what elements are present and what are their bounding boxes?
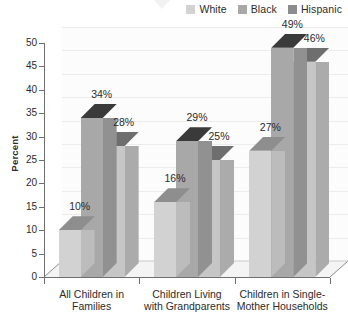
legend-swatch-black (238, 5, 247, 14)
legend-item-black[interactable]: Black (238, 4, 277, 15)
y-axis-label: 15 (10, 202, 37, 212)
bar-white-1[interactable] (59, 230, 81, 277)
y-axis-label: 10 (10, 225, 37, 235)
legend-label-white: White (199, 4, 226, 15)
legend-label-black: Black (251, 4, 277, 15)
bar-front-face (154, 202, 176, 277)
y-axis-label: 25 (10, 155, 37, 165)
y-axis-label: 5 (10, 249, 37, 259)
bar-white-2[interactable] (154, 202, 176, 277)
bar-value-label: 29% (178, 112, 216, 123)
bar-side-face (125, 146, 139, 277)
bar-value-label: 28% (105, 117, 143, 128)
y-axis-label: 30 (10, 132, 37, 142)
bar-value-label: 25% (200, 131, 238, 142)
bar-value-label: 10% (61, 201, 99, 212)
bar-white-3[interactable] (249, 151, 271, 277)
category-label-line: All Children in (40, 288, 143, 300)
bar-front-face (249, 151, 271, 277)
x-axis-category-label: Children in Single-Mother Households (231, 288, 334, 312)
x-axis-tick (235, 278, 236, 284)
bar-side-face (315, 62, 329, 277)
y-axis-label: 45 (10, 61, 37, 71)
bar-side-face (293, 48, 307, 277)
category-label-line: Children Living (135, 288, 238, 300)
top-edge-artifact (146, 0, 178, 9)
legend-swatch-hispanic (288, 5, 297, 14)
bar-side-face (220, 160, 234, 277)
legend-label-hispanic: Hispanic (301, 4, 342, 15)
bar-front-face (59, 230, 81, 277)
y-axis-label: 35 (10, 108, 37, 118)
bar-value-label: 49% (273, 19, 311, 30)
y-axis-label: 0 (10, 272, 37, 282)
chart-legend: White Black Hispanic (186, 4, 342, 15)
legend-item-white[interactable]: White (186, 4, 226, 15)
bar-value-label: 34% (83, 89, 121, 100)
category-label-line: Families (40, 300, 143, 312)
bar-side-face (103, 118, 117, 277)
y-axis-label: 50 (10, 38, 37, 48)
x-axis-tick (44, 278, 45, 284)
bar-value-label: 16% (156, 173, 194, 184)
bar-side-face (198, 141, 212, 277)
category-label-line: Mother Households (231, 300, 334, 312)
legend-item-hispanic[interactable]: Hispanic (288, 4, 342, 15)
bar-top-face (81, 104, 117, 118)
bar-value-label: 46% (295, 33, 333, 44)
legend-swatch-white (186, 5, 195, 14)
bars-layer: 10%34%28%16%29%25%27%49%46% (44, 43, 330, 277)
plot-area: 50454035302520151050 10%34%28%16%29%25%2… (44, 43, 330, 277)
x-axis-category-label: Children Livingwith Grandparents (135, 288, 238, 312)
y-axis-label: 20 (10, 178, 37, 188)
y-axis-label: 40 (10, 85, 37, 95)
bar-side-face (271, 151, 285, 277)
x-axis-tick (330, 278, 331, 284)
x-axis-line (44, 277, 330, 278)
category-label-line: Children in Single- (231, 288, 334, 300)
bar-value-label: 27% (251, 122, 289, 133)
x-axis-tick (139, 278, 140, 284)
category-label-line: with Grandparents (135, 300, 238, 312)
x-axis-category-label: All Children inFamilies (40, 288, 143, 312)
